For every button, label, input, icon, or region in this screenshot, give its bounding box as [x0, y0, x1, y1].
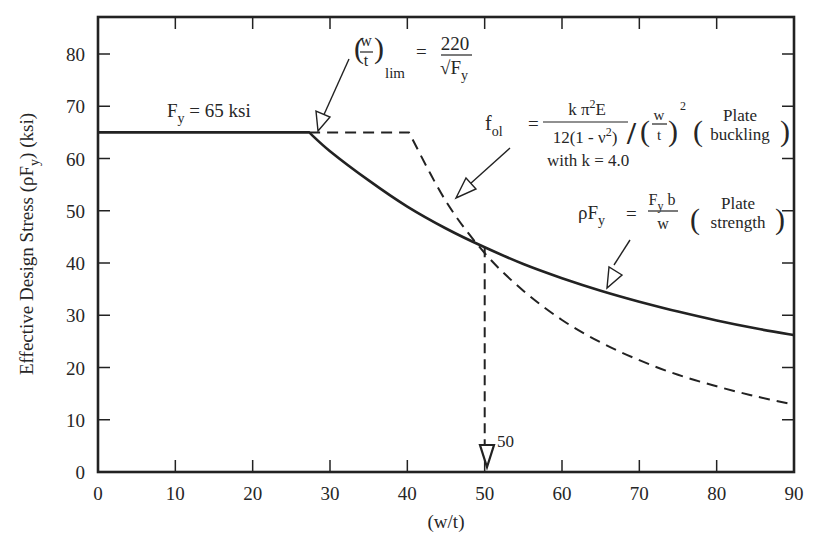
svg-text:(: (: [693, 114, 703, 148]
x-axis-ticks: 0102030405060708090: [93, 17, 803, 504]
svg-text:lim: lim: [385, 65, 405, 81]
svg-text:12(1 - ν2): 12(1 - ν2): [553, 125, 618, 147]
arrow-icon: [607, 267, 622, 288]
svg-text:w: w: [657, 215, 669, 232]
y-tick-label: 60: [66, 149, 85, 170]
y-tick-label: 30: [66, 305, 85, 326]
y-tick-label: 10: [66, 410, 85, 431]
svg-text:2: 2: [680, 99, 686, 113]
y-axis-label: Effective Design Stress (ρFy) (ksi): [16, 113, 42, 375]
chart: 01020304050607080 0102030405060708090 Ef…: [0, 0, 818, 548]
svg-text:√Fy: √Fy: [440, 57, 468, 83]
y-tick-label: 20: [66, 358, 85, 379]
x-tick-label: 80: [707, 483, 726, 504]
svg-text:=: =: [626, 203, 637, 224]
x-tick-label: 50: [475, 483, 494, 504]
arrow-icon: [316, 111, 330, 131]
marker-50-label: 50: [497, 432, 514, 451]
rho-fy-annotation: ρFy = Fy b w ( Plate strength ): [578, 191, 785, 288]
fy-annotation: Fy = 65 ksi: [167, 100, 251, 126]
svg-text:): ): [668, 114, 678, 148]
w-t-50-marker-icon: [480, 445, 494, 467]
svg-text:w: w: [654, 107, 665, 123]
wt-lim-annotation: ( w t ) lim = 220 √Fy: [316, 31, 472, 131]
y-tick-label: 80: [66, 44, 85, 65]
svg-text:): ): [780, 114, 790, 148]
svg-text:Fy b: Fy b: [649, 191, 676, 213]
fol-annotation: fol = k π2E 12(1 - ν2) / ( w t ) 2 ( Pla…: [456, 97, 790, 198]
x-tick-label: 90: [785, 483, 804, 504]
svg-text:=: =: [416, 41, 427, 62]
x-tick-label: 60: [553, 483, 572, 504]
x-tick-label: 70: [630, 483, 649, 504]
svg-text:): ): [775, 202, 785, 236]
svg-text:(: (: [640, 114, 650, 148]
svg-text:220: 220: [441, 33, 470, 54]
svg-text:buckling: buckling: [710, 125, 770, 144]
svg-text:Plate: Plate: [723, 106, 757, 125]
svg-text:/: /: [626, 115, 637, 151]
svg-text:): ): [374, 31, 384, 65]
svg-text:strength: strength: [711, 213, 766, 232]
y-tick-label: 50: [66, 201, 85, 222]
svg-text:fol: fol: [485, 112, 503, 139]
plate-buckling-curve: [309, 132, 794, 404]
y-tick-label: 0: [76, 462, 86, 483]
y-tick-label: 40: [66, 253, 85, 274]
x-tick-label: 10: [166, 483, 185, 504]
svg-text:with k = 4.0: with k = 4.0: [547, 151, 629, 170]
svg-text:t: t: [657, 127, 662, 143]
svg-text:=: =: [528, 113, 539, 134]
svg-text:(: (: [690, 202, 700, 236]
x-axis-label: (w/t): [428, 511, 465, 533]
svg-text:ρFy: ρFy: [578, 202, 605, 228]
y-tick-label: 70: [66, 96, 85, 117]
x-tick-label: 20: [243, 483, 262, 504]
x-tick-label: 30: [321, 483, 340, 504]
svg-text:Plate: Plate: [721, 194, 755, 213]
x-tick-label: 40: [398, 483, 417, 504]
svg-text:k π2E: k π2E: [568, 97, 606, 119]
svg-text:w: w: [360, 32, 372, 49]
svg-text:t: t: [364, 52, 369, 69]
plot-frame: [98, 17, 794, 472]
x-tick-label: 0: [93, 483, 103, 504]
